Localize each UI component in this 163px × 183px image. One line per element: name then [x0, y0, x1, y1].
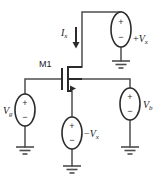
source-label-vx-top-subscript: x	[145, 38, 148, 46]
current-label-ix: Ix	[61, 28, 67, 40]
source-label-vb: Vb	[143, 100, 153, 112]
mosfet-m1-symbol	[62, 66, 82, 92]
voltage-source-vg: + −	[15, 94, 35, 126]
circuit-schematic-canvas: + − + − + − + −	[0, 0, 163, 183]
voltage-source-vb: + −	[120, 88, 140, 120]
minus-sign-vg: −	[22, 112, 27, 122]
plus-sign-vx-top: +	[118, 17, 123, 27]
transistor-label-m1: M1	[39, 60, 52, 69]
circuit-diagram: + − + − + − + −	[0, 0, 163, 183]
ground-symbol-left	[16, 147, 34, 154]
minus-sign-vb: −	[127, 106, 132, 116]
wire-body-to-vb-source	[82, 79, 130, 88]
source-label-vg: Vg	[3, 106, 13, 118]
source-label-vb-subscript: b	[149, 104, 153, 112]
source-label-vg-subscript: g	[9, 110, 13, 118]
current-label-subscript: x	[64, 32, 67, 40]
source-label-vx-top: +Vx	[133, 34, 148, 46]
plus-sign-vg: +	[22, 98, 27, 108]
ground-symbol-top-right	[112, 61, 130, 68]
source-label-vx-bottom: −Vx	[84, 129, 99, 141]
minus-sign-vx-bottom: −	[69, 135, 74, 145]
voltage-source-vx-top: + −	[111, 12, 131, 47]
minus-sign-vx-top: −	[118, 32, 123, 42]
ground-symbol-right	[121, 147, 139, 154]
voltage-source-vx-bottom: + −	[62, 117, 82, 149]
plus-sign-vx-bottom: +	[69, 121, 74, 131]
current-arrow-ix	[73, 27, 80, 49]
ground-symbol-center	[63, 166, 81, 173]
plus-sign-vb: +	[127, 92, 132, 102]
wire-gate-to-vg-source	[25, 79, 62, 94]
source-label-vx-bottom-subscript: x	[96, 133, 99, 141]
